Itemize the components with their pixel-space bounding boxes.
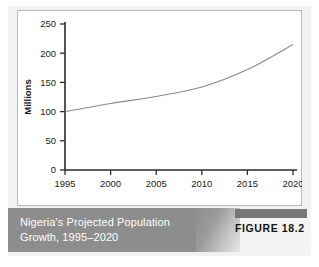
y-tick-label: 50 bbox=[45, 135, 56, 146]
x-tick-label: 2015 bbox=[237, 178, 258, 189]
y-axis-title: Millions bbox=[22, 79, 33, 114]
figure-number-label: FIGURE 18.2 bbox=[235, 222, 311, 234]
caption-line-2: Growth, 1995–2020 bbox=[20, 230, 210, 245]
y-tick-label: 250 bbox=[40, 18, 56, 29]
caption-line-1: Nigeria's Projected Population bbox=[20, 215, 210, 230]
y-tick-label: 100 bbox=[40, 106, 56, 117]
x-tick-label: 2000 bbox=[100, 178, 121, 189]
x-tick-label: 2010 bbox=[191, 178, 212, 189]
figure-label-bar bbox=[235, 209, 307, 218]
y-tick-label: 200 bbox=[40, 48, 56, 59]
x-tick-label: 2020 bbox=[282, 178, 302, 189]
y-tick-label: 150 bbox=[40, 77, 56, 88]
x-tick-label: 2005 bbox=[146, 178, 167, 189]
x-tick-label: 1995 bbox=[54, 178, 75, 189]
data-series-line bbox=[65, 44, 293, 111]
caption-band: Nigeria's Projected Population Growth, 1… bbox=[8, 208, 311, 252]
y-tick-label: 0 bbox=[51, 164, 56, 175]
line-chart: 050100150200250199520002005201020152020M… bbox=[17, 10, 302, 206]
figure-container: 050100150200250199520002005201020152020M… bbox=[0, 0, 319, 267]
figure-caption: Nigeria's Projected Population Growth, 1… bbox=[20, 215, 210, 245]
